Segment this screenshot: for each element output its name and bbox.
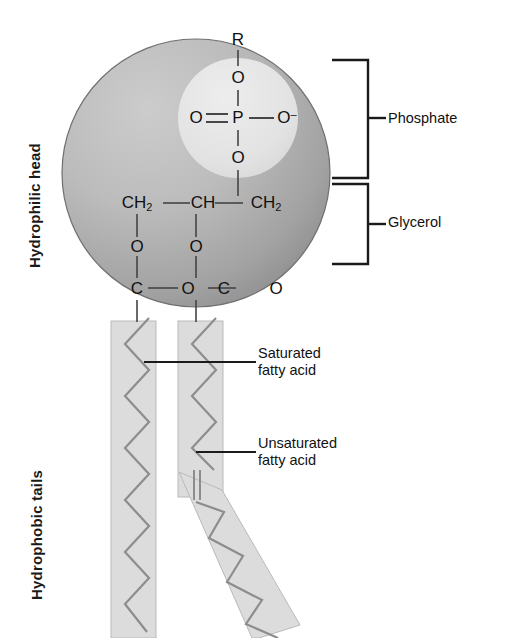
chem-ester-oxygen-left: O (130, 237, 143, 257)
phosphate-bracket-label: Phosphate (388, 110, 457, 127)
glycerol-bracket-label: Glycerol (388, 214, 441, 231)
phosphate-bracket (332, 60, 386, 178)
chem-carbonyl-carbon-right: C (218, 279, 230, 299)
chem-right-oxygen-symbol: O (277, 108, 290, 127)
chem-carbonyl-oxygen-right: O (269, 279, 282, 299)
phospholipid-diagram-page: R O O P O– O CH2 CH CH2 O O C O C O Hydr… (0, 0, 505, 638)
chem-right-oxygen: O– (277, 108, 296, 128)
unsaturated-fatty-acid-label: Unsaturated fatty acid (258, 435, 337, 469)
chem-right-oxygen-charge: – (291, 108, 297, 120)
chem-glycerol-carbon-3-subscript: 2 (275, 201, 281, 213)
chem-ester-oxygen-bottom: O (231, 148, 244, 168)
phospholipid-diagram-canvas (0, 0, 505, 638)
chem-left-oxygen: O (189, 108, 202, 128)
chem-glycerol-carbon-2: CH (191, 193, 216, 213)
unsaturated-label-line-2: fatty acid (258, 452, 337, 469)
chem-r-group: R (232, 30, 244, 50)
chem-phosphorus: P (232, 108, 243, 128)
chem-glycerol-carbon-3: CH2 (251, 193, 282, 213)
chem-carbonyl-carbon-left: C (131, 279, 143, 299)
chem-glycerol-carbon-1-symbol: CH (122, 193, 147, 212)
saturated-fatty-acid-label: Saturated fatty acid (258, 345, 321, 379)
saturated-tail-band (111, 321, 156, 638)
chem-glycerol-carbon-1: CH2 (122, 193, 153, 213)
chem-ester-oxygen-middle: O (189, 237, 202, 257)
chem-ester-oxygen-top: O (231, 68, 244, 88)
chem-glycerol-carbon-1-subscript: 2 (146, 201, 152, 213)
saturated-label-line-1: Saturated (258, 345, 321, 362)
glycerol-bracket (332, 184, 386, 264)
saturated-fatty-acid-tail (111, 318, 156, 638)
chem-carbonyl-oxygen-left: O (181, 279, 194, 299)
unsaturated-label-line-1: Unsaturated (258, 435, 337, 452)
hydrophobic-tails-label: Hydrophobic tails (28, 470, 45, 600)
saturated-label-line-2: fatty acid (258, 362, 321, 379)
chem-glycerol-carbon-3-symbol: CH (251, 193, 276, 212)
hydrophilic-head-label: Hydrophilic head (26, 143, 43, 268)
